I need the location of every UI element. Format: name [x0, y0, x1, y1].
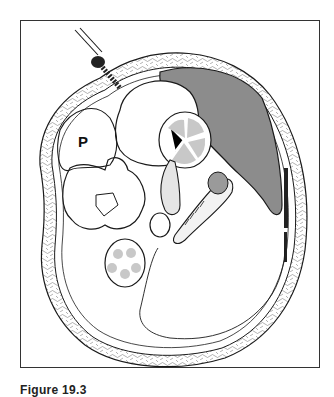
psoas-label: P: [78, 133, 88, 150]
kidney-lower: [105, 239, 145, 287]
figure-caption: Figure 19.3: [20, 383, 87, 397]
kidney-upper: [159, 112, 211, 168]
muscle-strip: [284, 168, 288, 228]
bowel-loop-small: [150, 213, 170, 237]
